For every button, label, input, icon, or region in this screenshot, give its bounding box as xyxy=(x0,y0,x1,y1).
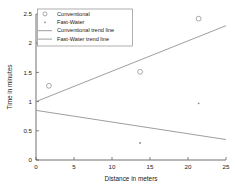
y-axis-ticks: 00.511.522.5 xyxy=(23,10,39,163)
y-tick-label: 2 xyxy=(29,39,33,46)
x-tick-label: 15 xyxy=(147,163,154,170)
y-tick-label: 1.5 xyxy=(23,69,32,76)
data-point-fast-water xyxy=(139,142,141,144)
chart-legend: ConventionalFast-WaterConventional trend… xyxy=(38,9,133,46)
chart-figure: 0510152025 00.511.522.5 Distance in mete… xyxy=(0,0,235,187)
data-point-conventional xyxy=(196,16,201,21)
data-point-conventional xyxy=(138,69,143,74)
legend-label: Fast-Water xyxy=(57,19,85,25)
x-tick-label: 10 xyxy=(109,163,116,170)
y-tick-label: 0.5 xyxy=(23,127,32,134)
scatter-plot: 0510152025 00.511.522.5 Distance in mete… xyxy=(0,0,235,187)
x-tick-label: 0 xyxy=(34,163,38,170)
y-axis-title: Time in minutes xyxy=(6,65,13,110)
y-tick-label: 0 xyxy=(29,156,33,163)
legend-label: Fast-Water trend line xyxy=(57,36,109,42)
x-tick-label: 25 xyxy=(223,163,230,170)
x-axis-ticks: 0510152025 xyxy=(34,157,230,170)
y-tick-label: 2.5 xyxy=(23,10,32,17)
legend-label: Conventional trend line xyxy=(57,27,114,33)
x-axis-title: Distance in meters xyxy=(105,175,158,182)
x-tick-label: 20 xyxy=(185,163,192,170)
legend-label: Conventional xyxy=(57,11,90,17)
y-tick-label: 1 xyxy=(29,98,33,105)
legend-symbol-fast-water xyxy=(44,21,46,23)
trend-line xyxy=(36,110,226,139)
data-point-fast-water xyxy=(198,102,200,104)
data-point-conventional xyxy=(47,83,52,88)
x-tick-label: 5 xyxy=(72,163,76,170)
